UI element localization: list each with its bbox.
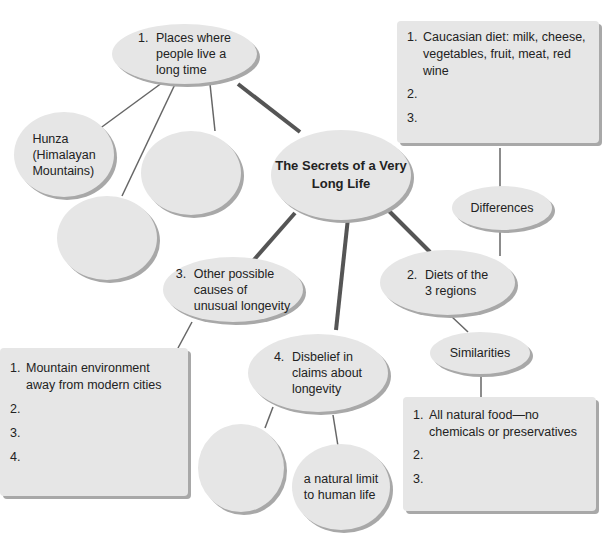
box-similarities-list: 1.All natural food—no chemicals or prese… <box>403 397 596 511</box>
node-hunza: Hunza (Himalayan Mountains) <box>14 112 114 197</box>
node-center-title: The Secrets of a Very Long Life <box>271 130 411 220</box>
node-blank-disbelief[interactable] <box>198 424 284 512</box>
node-disbelief: 4.Disbelief in claims about longevity <box>248 334 388 412</box>
node-places: 1.Places where people live a long time <box>112 24 257 84</box>
node-blank-place-2[interactable] <box>57 196 157 280</box>
box-causes-list: 1.Mountain environment away from modern … <box>0 348 188 496</box>
node-diets: 2.Diets of the 3 regions <box>380 250 515 315</box>
node-differences: Differences <box>452 186 552 230</box>
node-blank-place-1[interactable] <box>141 131 241 215</box>
node-similarities: Similarities <box>430 332 530 374</box>
node-natural-limit: a natural limit to human life <box>292 444 390 530</box>
node-causes: 3.Other possible causes of unusual longe… <box>163 257 303 322</box>
box-differences-list: 1.Caucasian diet: milk, cheese, vegetabl… <box>397 21 599 143</box>
